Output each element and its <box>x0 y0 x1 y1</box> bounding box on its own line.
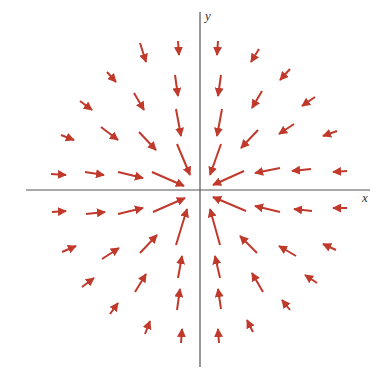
arrow-icon <box>85 172 104 175</box>
arrow-icon <box>292 169 311 171</box>
arrow-icon <box>255 206 280 212</box>
arrow-icon <box>240 236 257 253</box>
arrow-icon <box>145 321 150 334</box>
arrow-icon <box>176 109 181 136</box>
arrow-icon <box>294 209 312 211</box>
arrow-icon <box>323 244 336 250</box>
arrow-icon <box>279 124 294 134</box>
arrow-icon <box>101 127 118 140</box>
arrow-icon <box>134 93 144 110</box>
arrow-icon <box>177 289 180 310</box>
arrow-icon <box>110 303 118 314</box>
arrow-icon <box>210 209 220 245</box>
arrow-icon <box>140 235 157 253</box>
arrow-icon <box>213 197 246 211</box>
arrow-icon <box>218 289 221 309</box>
arrow-icon <box>213 171 244 185</box>
arrow-icon <box>217 41 218 55</box>
arrow-icon <box>282 300 290 310</box>
arrow-icon <box>323 131 337 136</box>
arrow-icon <box>255 168 280 173</box>
arrow-icon <box>305 275 317 283</box>
arrow-icon <box>178 256 182 278</box>
arrow-icon <box>86 212 105 214</box>
arrow-icon <box>139 132 156 150</box>
arrow-icon <box>118 172 143 178</box>
x-axis-label: x <box>362 190 368 206</box>
arrow-icon <box>280 69 290 80</box>
arrow-icon <box>252 91 262 108</box>
arrow-icon <box>218 329 219 343</box>
arrow-icon <box>152 172 184 186</box>
arrow-icon <box>178 41 179 55</box>
arrow-icon <box>52 211 66 212</box>
arrow-icon <box>333 171 347 172</box>
arrow-icon <box>218 75 221 96</box>
arrow-icon <box>51 174 66 175</box>
arrow-icon <box>241 130 258 148</box>
vector-field-plot <box>0 0 388 374</box>
arrow-icon <box>210 144 221 175</box>
arrow-icon <box>118 208 143 214</box>
arrow-icon <box>62 246 76 252</box>
y-axis-label: y <box>205 8 211 24</box>
arrow-icon <box>302 97 315 106</box>
arrow-icon <box>177 144 190 175</box>
arrow-icon <box>217 109 222 136</box>
arrow-icon <box>176 209 187 245</box>
arrow-icon <box>181 329 182 343</box>
arrow-icon <box>215 256 220 278</box>
arrow-icon <box>153 198 185 212</box>
arrow-icon <box>107 72 116 82</box>
arrow-icon <box>80 101 92 110</box>
arrow-icon <box>135 274 146 292</box>
arrow-icon <box>140 43 146 62</box>
arrow-icon <box>61 135 74 140</box>
arrow-icon <box>102 248 119 259</box>
arrow-icon <box>251 49 259 62</box>
vector-arrows <box>51 41 347 343</box>
arrow-icon <box>175 75 178 96</box>
arrow-icon <box>252 273 263 292</box>
arrow-icon <box>82 278 94 287</box>
arrow-icon <box>247 320 253 332</box>
arrow-icon <box>279 246 296 256</box>
